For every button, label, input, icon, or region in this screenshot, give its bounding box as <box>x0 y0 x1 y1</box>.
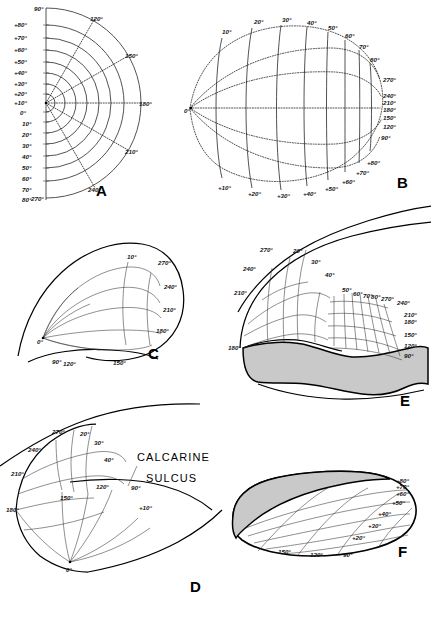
panel-d-upper-label-1: 30° <box>94 439 104 446</box>
panel-f-right-label-3: +50° <box>392 499 405 506</box>
panel-b-right-label-0: 270° <box>382 76 396 83</box>
panel-a-meridian-label-4: 210° <box>124 148 138 155</box>
panel-c-bottom-label-0: 90° <box>52 358 62 365</box>
panel-a-ecc-label-lower-6: 70° <box>22 186 32 193</box>
panel-b-bottom-label-2: +30° <box>277 192 290 199</box>
panel-b: 10° 20° 30° 40° 50° 60° 70° 80° +10° +20… <box>184 16 408 199</box>
panel-d-left-label-2: 210° <box>10 470 24 477</box>
panel-c: 0° 10° 270° 240° 210° 180° 90° 120° 150°… <box>18 243 184 367</box>
panel-b-bottom-label-6: +70° <box>356 169 369 176</box>
panel-c-eccentricity-arcs <box>43 267 161 350</box>
panel-a: +80° +70° +60° +50° +40° +30° +20° +10° … <box>14 5 152 203</box>
panel-b-bottom-label-5: +60° <box>342 178 355 185</box>
panel-e-upper-label-1: 30° <box>311 258 321 265</box>
panel-b-origin-marker <box>190 107 192 109</box>
panel-d-mid-label-0: 150° <box>60 494 73 501</box>
panel-b-top-label-4: 50° <box>328 24 338 31</box>
panel-e: 270° 240° 210° 180° 20° 30° 40° 50° 60° … <box>228 222 431 409</box>
panel-b-top-label-0: 10° <box>222 28 232 35</box>
panel-e-right-label-6: 90° <box>404 352 414 359</box>
panel-d-left-label-1: 240° <box>27 446 41 453</box>
panel-e-upper-label-0: 20° <box>292 247 303 254</box>
panel-b-right-label-3: 180° <box>383 106 396 113</box>
panel-a-ecc-label-upper-2: +60° <box>14 46 27 53</box>
panel-f-bottom-label-2: 90° <box>343 551 353 558</box>
panel-a-ecc-label-upper-3: +50° <box>14 58 27 65</box>
panel-a-ecc-label-upper-6: +20° <box>14 90 27 97</box>
panel-a-meridian-label-3: 180° <box>139 100 152 107</box>
panel-b-right-label-4: 150° <box>383 114 396 121</box>
panel-e-left-label-0: 270° <box>259 246 273 253</box>
panel-c-right-label-0: 270° <box>157 259 171 266</box>
panel-b-right-label-1: 240° <box>382 92 396 99</box>
panel-e-letter: E <box>400 392 410 409</box>
panel-e-left-label-1: 240° <box>242 265 256 272</box>
panel-d-contour-lower <box>88 510 222 572</box>
panel-a-ecc-label-lower-5: 60° <box>22 175 32 182</box>
panel-e-right-label-5: 120° <box>404 342 417 349</box>
panel-d-letter: D <box>190 578 201 595</box>
panel-a-meridian-label-2: 150° <box>125 52 138 59</box>
panel-b-top-label-5: 60° <box>345 32 355 39</box>
panel-d-left-label-3: 180° <box>6 506 19 513</box>
panel-b-right-label-2: 210° <box>382 99 396 106</box>
panel-b-right-label-5: 120° <box>383 123 396 130</box>
panel-c-bottom-label-1: 120° <box>63 360 76 367</box>
panel-c-bottom-label-2: 150° <box>113 359 126 366</box>
panel-a-origin-marker <box>45 102 48 105</box>
panel-a-origin-label: 0° <box>20 109 26 116</box>
panel-f-shaded-strip <box>232 471 390 538</box>
panel-f-right-label-2: +60° <box>396 490 409 497</box>
panel-c-right-label-1: 240° <box>163 283 177 290</box>
panel-a-letter: A <box>96 182 107 199</box>
panel-d-left-label-0: 270° <box>51 428 65 435</box>
panel-b-bottom-label-7: +80° <box>367 159 380 166</box>
panel-b-top-label-6: 70° <box>359 43 369 50</box>
panel-c-inner-label: 10° <box>127 253 137 260</box>
panel-e-right-label-1: 240° <box>396 299 410 306</box>
panel-e-upper-outline <box>240 222 431 348</box>
calcarine-label-line2: SULCUS <box>146 472 197 484</box>
panel-e-shaded-bank <box>243 342 428 394</box>
panel-a-ecc-label-upper-7: +10° <box>14 99 27 106</box>
panel-a-ecc-label-lower-3: 40° <box>21 153 32 160</box>
panel-f-bottom-label-0: 150° <box>278 548 291 555</box>
panel-f-right-label-5: +30° <box>368 522 381 529</box>
panel-f-right-label-6: +20° <box>352 534 365 541</box>
panel-b-origin-label: 0° <box>184 107 190 114</box>
panel-e-right-label-0: 270° <box>380 295 394 302</box>
panel-e-right-label-4: 150° <box>404 331 417 338</box>
panel-d-mid-label-1: 120° <box>96 483 109 490</box>
panel-b-bottom-label-3: +40° <box>303 190 316 197</box>
panel-e-upper-label-2: 40° <box>324 271 335 278</box>
panel-f-right-label-1: +70° <box>396 483 409 490</box>
panel-e-right-label-2: 210° <box>403 311 417 318</box>
panel-b-right-label-6: 90° <box>381 134 391 141</box>
panel-f-bottom-label-1: 120° <box>310 551 323 558</box>
panel-d-mid-label-2: 90° <box>131 484 141 491</box>
panel-d-upper-label-2: 40° <box>103 456 114 463</box>
panel-c-right-label-3: 180° <box>156 327 169 334</box>
panel-c-origin-label: 0° <box>37 338 43 345</box>
panel-a-ecc-label-lower-0: 10° <box>22 120 32 127</box>
figure-canvas: +80° +70° +60° +50° +40° +30° +20° +10° … <box>0 0 431 626</box>
panel-d-origin-label: 0° <box>66 566 72 573</box>
panel-c-letter: C <box>148 345 159 362</box>
panel-e-upper-label-3: 50° <box>342 286 352 293</box>
panel-e-left-label-2: 210° <box>233 289 247 296</box>
cortex-contour-upper-right <box>238 206 431 312</box>
panel-c-cortex-lower-edge <box>28 350 158 363</box>
panel-b-bottom-label-1: +20° <box>248 190 261 197</box>
panel-f: +80° +70° +60° +50° +40° +30° +20° 150° … <box>232 471 416 560</box>
panel-e-left-label-3: 180° <box>228 344 241 351</box>
figure-svg: +80° +70° +60° +50° +40° +30° +20° +10° … <box>0 0 431 626</box>
panel-b-bottom-label-4: +50° <box>325 185 338 192</box>
panel-d-origin-marker <box>69 561 72 564</box>
panel-b-top-label-3: 40° <box>306 19 317 26</box>
panel-a-meridian-rays <box>46 19 141 187</box>
panel-a-meridian-label-0: 90° <box>34 5 44 12</box>
panel-d: 270° 240° 210° 180° 20° 30° 40° 150° 120… <box>0 404 222 595</box>
panel-f-letter: F <box>398 543 407 560</box>
panel-a-ecc-label-upper-1: +70° <box>14 34 27 41</box>
panel-b-top-label-1: 20° <box>253 18 264 25</box>
